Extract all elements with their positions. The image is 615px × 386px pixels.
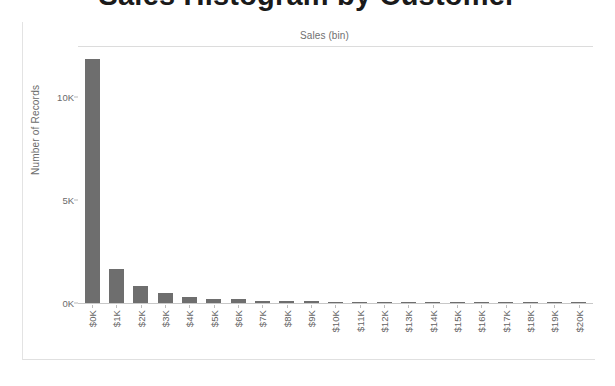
x-axis-tick-mark xyxy=(311,305,312,308)
bar-slot xyxy=(250,47,274,303)
bar-slot xyxy=(202,47,226,303)
y-axis-tick-label: 5K xyxy=(62,195,74,206)
x-axis-tick-mark xyxy=(238,305,239,308)
bar[interactable] xyxy=(85,59,100,303)
bar-slot xyxy=(372,47,396,303)
x-axis-tick-mark xyxy=(116,305,117,308)
x-axis-tick-mark xyxy=(408,305,409,308)
bar-slot xyxy=(80,47,104,303)
x-axis-tick-mark xyxy=(287,305,288,308)
x-axis-slot: $18K xyxy=(518,305,542,357)
y-axis-tick-label: 10K xyxy=(57,92,74,103)
plot-area xyxy=(78,46,593,303)
column-field-label: Sales (bin) xyxy=(58,30,591,44)
x-axis: $0K$1K$2K$3K$4K$5K$6K$7K$8K$9K$10K$11K$1… xyxy=(78,305,593,357)
x-axis-tick-label: $14K xyxy=(427,310,438,333)
x-axis-tick-label: $19K xyxy=(549,310,560,333)
x-axis-slot: $2K xyxy=(129,305,153,357)
x-axis-tick-label: $18K xyxy=(525,310,536,333)
page-title: Sales Histogram by Customer xyxy=(0,0,615,12)
bar-slot xyxy=(275,47,299,303)
bar-slot xyxy=(153,47,177,303)
x-axis-slot: $15K xyxy=(445,305,469,357)
bar[interactable] xyxy=(158,293,173,303)
bar-slot xyxy=(104,47,128,303)
x-axis-tick-label: $17K xyxy=(500,310,511,333)
x-axis-slot: $14K xyxy=(421,305,445,357)
x-axis-slot: $16K xyxy=(469,305,493,357)
x-axis-tick-mark xyxy=(214,305,215,308)
x-axis-tick-mark xyxy=(554,305,555,308)
x-axis-tick-label: $9K xyxy=(306,310,317,327)
bar-slot xyxy=(445,47,469,303)
x-axis-tick-mark xyxy=(189,305,190,308)
x-axis-tick-label: $7K xyxy=(257,310,268,327)
x-axis-tick-mark xyxy=(141,305,142,308)
x-axis-slot: $7K xyxy=(250,305,274,357)
x-axis-tick-mark xyxy=(360,305,361,308)
x-axis-baseline xyxy=(78,303,593,304)
bar-slot xyxy=(396,47,420,303)
bar-slot xyxy=(177,47,201,303)
bar-slot xyxy=(567,47,591,303)
x-axis-slot: $0K xyxy=(80,305,104,357)
y-axis-tick-label: 0K xyxy=(62,298,74,309)
bar-slot xyxy=(226,47,250,303)
x-axis-slot: $8K xyxy=(275,305,299,357)
x-axis-slot: $13K xyxy=(396,305,420,357)
x-axis-tick-label: $0K xyxy=(87,310,98,327)
x-axis-slot: $9K xyxy=(299,305,323,357)
bar[interactable] xyxy=(109,269,124,303)
bar[interactable] xyxy=(133,286,148,303)
x-axis-tick-label: $13K xyxy=(403,310,414,333)
x-axis-tick-label: $2K xyxy=(135,310,146,327)
x-axis-slot: $1K xyxy=(104,305,128,357)
bar-slot xyxy=(129,47,153,303)
x-axis-tick-label: $12K xyxy=(379,310,390,333)
x-axis-tick-mark xyxy=(165,305,166,308)
x-axis-tick-mark xyxy=(262,305,263,308)
x-axis-tick-label: $11K xyxy=(354,310,365,332)
x-axis-tick-mark xyxy=(506,305,507,308)
x-axis-tick-label: $16K xyxy=(476,310,487,333)
x-axis-slot: $10K xyxy=(323,305,347,357)
x-axis-slot: $4K xyxy=(177,305,201,357)
x-axis-tick-mark xyxy=(92,305,93,308)
x-axis-tick-mark xyxy=(384,305,385,308)
bar-slot xyxy=(299,47,323,303)
bar-slot xyxy=(348,47,372,303)
bar-slot xyxy=(323,47,347,303)
x-axis-slot: $5K xyxy=(202,305,226,357)
x-axis-tick-label: $15K xyxy=(452,310,463,333)
bar-slot xyxy=(421,47,445,303)
x-axis-tick-mark xyxy=(433,305,434,308)
x-axis-tick-mark xyxy=(579,305,580,308)
x-axis-tick-mark xyxy=(481,305,482,308)
x-axis-tick-label: $20K xyxy=(573,310,584,333)
x-axis-slot: $6K xyxy=(226,305,250,357)
x-axis-tick-label: $10K xyxy=(330,310,341,333)
x-axis-slot: $11K xyxy=(348,305,372,357)
bar-series xyxy=(78,47,593,303)
bar-slot xyxy=(469,47,493,303)
bar-slot xyxy=(542,47,566,303)
x-axis-slot: $20K xyxy=(567,305,591,357)
x-axis-tick-label: $8K xyxy=(281,310,292,327)
bar-slot xyxy=(518,47,542,303)
x-axis-tick-mark xyxy=(335,305,336,308)
bar-slot xyxy=(494,47,518,303)
page-title-clipped: Sales Histogram by Customer xyxy=(0,0,615,14)
x-axis-slot: $19K xyxy=(542,305,566,357)
y-axis: 0K5K10K xyxy=(52,46,78,304)
x-axis-tick-mark xyxy=(530,305,531,308)
x-axis-tick-label: $6K xyxy=(233,310,244,327)
x-axis-tick-label: $4K xyxy=(184,310,195,327)
x-axis-tick-mark xyxy=(457,305,458,308)
x-axis-slot: $17K xyxy=(494,305,518,357)
x-axis-slot: $3K xyxy=(153,305,177,357)
x-axis-slot: $12K xyxy=(372,305,396,357)
y-axis-title: Number of Records xyxy=(30,85,41,175)
x-axis-tick-label: $5K xyxy=(208,310,219,327)
x-axis-tick-label: $3K xyxy=(160,310,171,327)
x-axis-tick-label: $1K xyxy=(111,310,122,327)
